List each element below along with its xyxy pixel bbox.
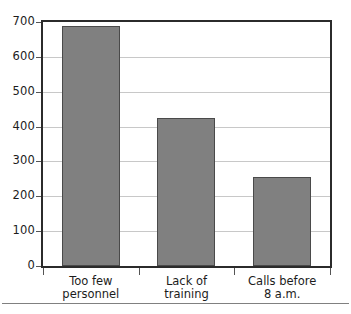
x-axis-category-label-line: Calls before: [234, 275, 330, 288]
y-axis-tick-label: 500: [0, 86, 35, 98]
footer-divider: [2, 303, 349, 304]
bar-slot: [43, 22, 139, 266]
x-axis-category-label: Lack oftraining: [139, 275, 235, 300]
y-axis-tick-label: 700: [0, 16, 35, 28]
x-axis-category-label-line: Too few: [43, 275, 139, 288]
bar-slot: [139, 22, 235, 266]
bar[interactable]: [62, 26, 120, 267]
bar-chart-figure: 0100200300400500600700 Too fewpersonnelL…: [0, 0, 351, 314]
y-axis-tick-label: 400: [0, 121, 35, 133]
bar-slot: [234, 22, 330, 266]
x-axis-tick-mark: [330, 268, 331, 275]
bars-group: [43, 22, 330, 266]
x-axis-category-label: Too fewpersonnel: [43, 275, 139, 300]
bar[interactable]: [253, 177, 311, 266]
y-axis-tick-label: 200: [0, 190, 35, 202]
x-axis-category-label-line: Lack of: [139, 275, 235, 288]
x-axis-category-label-line: 8 a.m.: [234, 288, 330, 301]
y-axis-tick-label: 600: [0, 51, 35, 63]
plot-area: [41, 20, 332, 268]
y-axis-tick-label: 100: [0, 225, 35, 237]
x-axis-tick-mark: [43, 268, 44, 275]
bar[interactable]: [157, 118, 215, 266]
x-axis-category-label-line: training: [139, 288, 235, 301]
x-axis-category-label-line: personnel: [43, 288, 139, 301]
x-axis-category-label: Calls before8 a.m.: [234, 275, 330, 300]
x-axis-tick-mark: [234, 268, 235, 275]
y-axis-tick-label: 0: [0, 260, 35, 272]
y-axis-tick-label: 300: [0, 155, 35, 167]
x-axis-tick-mark: [139, 268, 140, 275]
